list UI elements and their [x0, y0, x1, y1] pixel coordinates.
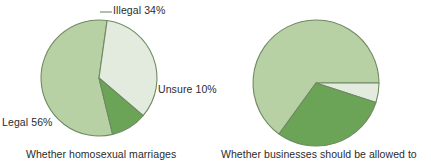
caption-right-chart: Whether businesses should be allowed to: [221, 148, 417, 160]
pie-right-svg: [215, 0, 431, 145]
pie-chart-figure: Illegal 34% Unsure 10% Legal 56% Should …: [0, 0, 431, 164]
label-unsure-left: Unsure 10%: [158, 83, 217, 95]
label-legal: Legal 56%: [2, 116, 53, 128]
label-illegal: Illegal 34%: [113, 4, 165, 16]
chart-homosexual-marriages: Illegal 34% Unsure 10% Legal 56%: [0, 0, 215, 164]
caption-left-chart: Whether homosexual marriages: [26, 148, 176, 160]
chart-businesses-allowed: Should Not 65% Unsure 5% Should 30%: [215, 0, 431, 164]
